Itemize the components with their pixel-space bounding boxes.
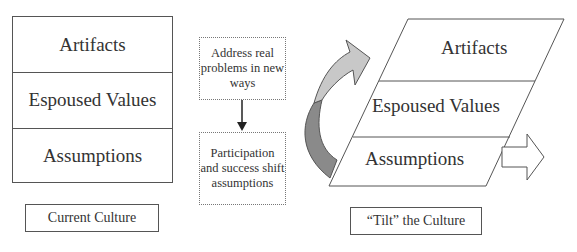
- tilted-culture-caption: “Tilt” the Culture: [350, 207, 482, 235]
- tilted-espoused-values-layer: Espoused Values: [372, 95, 500, 117]
- tilted-assumptions-layer: Assumptions: [365, 148, 464, 170]
- down-arrow-icon: [237, 100, 247, 131]
- right-arrow-icon: [502, 134, 544, 180]
- curved-arrow-bottom-icon: [305, 100, 337, 178]
- tilted-artifacts-layer: Artifacts: [441, 37, 507, 59]
- curved-arrow-top-icon: [314, 40, 370, 103]
